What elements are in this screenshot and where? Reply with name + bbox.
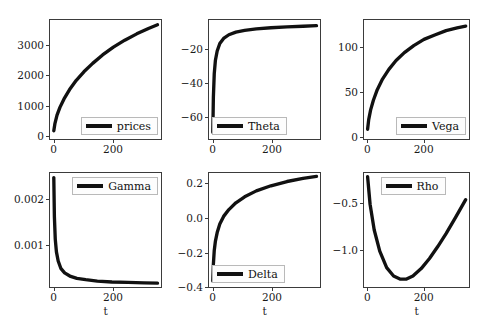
plot-panel-vega: 0501000200Vega: [363, 19, 470, 140]
plot-area-rho: −1.0−0.50200tRho: [363, 172, 470, 288]
legend-prices[interactable]: prices: [81, 117, 158, 135]
y-tick-prices-3: [46, 45, 50, 46]
y-tick-label-prices-2: 2000: [17, 70, 44, 81]
x-axis-label-rho: t: [414, 306, 418, 317]
legend-vega[interactable]: Vega: [396, 117, 466, 135]
y-tick-rho-0: [360, 250, 364, 251]
y-tick-delta-2: [205, 218, 209, 219]
legend-theta[interactable]: Theta: [212, 117, 287, 135]
legend-label-delta: Delta: [248, 269, 278, 280]
x-tick-label-theta-0: 0: [209, 144, 216, 155]
y-tick-gamma-0: [46, 245, 50, 246]
y-tick-label-theta-2: −20: [181, 44, 203, 55]
legend-line-swatch-icon: [86, 124, 112, 128]
y-tick-theta-1: [205, 83, 209, 84]
plot-area-delta: −0.4−0.20.00.20200tDelta: [208, 172, 321, 288]
y-tick-gamma-1: [46, 199, 50, 200]
plot-panel-prices: 01000200030000200prices: [49, 19, 162, 140]
plot-area-theta: −60−40−200200Theta: [208, 19, 321, 140]
y-tick-label-rho-0: −1.0: [333, 244, 359, 255]
y-tick-vega-0: [360, 137, 364, 138]
y-tick-prices-1: [46, 106, 50, 107]
legend-line-swatch-icon: [386, 184, 412, 188]
x-tick-label-vega-0: 0: [364, 144, 371, 155]
y-tick-delta-0: [205, 287, 209, 288]
legend-label-prices: prices: [117, 121, 151, 132]
x-tick-label-gamma-0: 0: [50, 292, 57, 303]
x-tick-label-vega-1: 200: [414, 144, 434, 155]
y-tick-label-theta-1: −40: [181, 78, 203, 89]
x-tick-label-prices-0: 0: [50, 144, 57, 155]
y-tick-delta-1: [205, 253, 209, 254]
greeks-figure-panel-grid: 01000200030000200prices −60−40−200200The…: [0, 0, 479, 330]
y-tick-label-delta-3: 0.2: [186, 178, 203, 189]
legend-line-swatch-icon: [217, 124, 243, 128]
y-tick-label-vega-0: 0: [351, 131, 358, 142]
y-tick-theta-2: [205, 49, 209, 50]
y-tick-label-rho-1: −0.5: [333, 198, 359, 209]
y-tick-label-delta-1: −0.2: [178, 247, 204, 258]
y-tick-label-prices-1: 1000: [17, 101, 44, 112]
y-tick-theta-0: [205, 117, 209, 118]
plot-panel-delta: −0.4−0.20.00.20200tDelta: [208, 172, 321, 288]
legend-line-swatch-icon: [401, 124, 427, 128]
plot-panel-rho: −1.0−0.50200tRho: [363, 172, 470, 288]
y-tick-delta-3: [205, 183, 209, 184]
x-tick-label-gamma-1: 200: [103, 292, 123, 303]
y-tick-vega-2: [360, 47, 364, 48]
y-tick-label-delta-0: −0.4: [178, 282, 204, 293]
legend-label-gamma: Gamma: [108, 181, 151, 192]
y-tick-prices-2: [46, 75, 50, 76]
y-tick-label-theta-0: −60: [181, 112, 203, 123]
x-tick-label-prices-1: 200: [103, 144, 123, 155]
plot-panel-theta: −60−40−200200Theta: [208, 19, 321, 140]
plot-area-gamma: 0.0010.0020200tGamma: [49, 172, 162, 288]
y-tick-label-delta-2: 0.0: [186, 213, 203, 224]
legend-label-vega: Vega: [432, 121, 459, 132]
x-tick-label-delta-0: 0: [209, 292, 216, 303]
legend-label-rho: Rho: [417, 181, 439, 192]
y-tick-vega-1: [360, 92, 364, 93]
legend-label-theta: Theta: [248, 121, 280, 132]
y-tick-label-gamma-0: 0.001: [14, 240, 44, 251]
y-tick-label-vega-2: 100: [338, 42, 358, 53]
legend-gamma[interactable]: Gamma: [72, 177, 158, 195]
legend-line-swatch-icon: [77, 184, 103, 188]
plot-panel-gamma: 0.0010.0020200tGamma: [49, 172, 162, 288]
x-tick-label-rho-0: 0: [364, 292, 371, 303]
x-tick-label-theta-1: 200: [262, 144, 282, 155]
legend-rho[interactable]: Rho: [381, 177, 446, 195]
plot-area-prices: 01000200030000200prices: [49, 19, 162, 140]
x-axis-label-gamma: t: [103, 306, 107, 317]
y-tick-label-vega-1: 50: [345, 86, 358, 97]
x-tick-label-rho-1: 200: [414, 292, 434, 303]
legend-line-swatch-icon: [217, 272, 243, 276]
legend-delta[interactable]: Delta: [212, 265, 285, 283]
y-tick-label-gamma-1: 0.002: [14, 193, 44, 204]
x-axis-label-delta: t: [262, 306, 266, 317]
y-tick-rho-1: [360, 203, 364, 204]
y-tick-prices-0: [46, 136, 50, 137]
y-tick-label-prices-0: 0: [37, 131, 44, 142]
x-tick-label-delta-1: 200: [262, 292, 282, 303]
plot-area-vega: 0501000200Vega: [363, 19, 470, 140]
y-tick-label-prices-3: 3000: [17, 39, 44, 50]
